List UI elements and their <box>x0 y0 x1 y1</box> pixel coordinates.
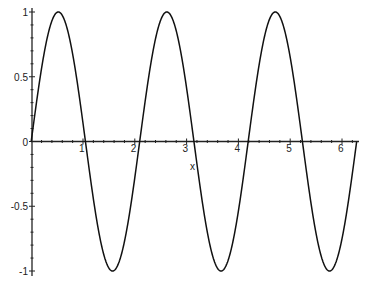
x-tick-label: 1 <box>79 143 85 154</box>
x-tick-label: 3 <box>183 143 189 154</box>
x-ticks: 123456 <box>42 139 353 154</box>
x-tick-label: 4 <box>234 143 240 154</box>
y-tick-label: 0 <box>22 137 28 148</box>
y-tick-label: -1 <box>19 266 28 277</box>
y-tick-label: 0.5 <box>14 72 28 83</box>
y-tick-label: -0.5 <box>11 201 29 212</box>
x-tick-label: 6 <box>338 143 344 154</box>
x-tick-label: 2 <box>131 143 137 154</box>
sine-plot: 123456 -1-0.500.51 x <box>0 0 366 286</box>
x-axis-label: x <box>190 161 195 172</box>
y-tick-label: 1 <box>22 7 28 18</box>
x-tick-label: 5 <box>286 143 292 154</box>
